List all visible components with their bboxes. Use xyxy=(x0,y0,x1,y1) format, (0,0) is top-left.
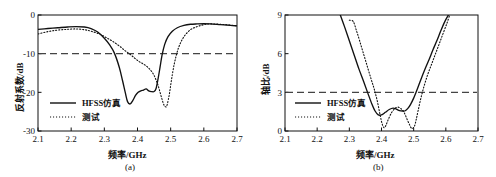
x-tick-label: 2.2 xyxy=(66,134,77,144)
x-tick-label: 2.6 xyxy=(198,134,210,144)
x-tick-label: 2.6 xyxy=(440,134,452,144)
y-tick-label: 3 xyxy=(278,88,283,98)
series-line-measured xyxy=(349,15,449,129)
legend-label-simulated: HFSS仿真 xyxy=(327,98,366,108)
x-tick-label: 2.5 xyxy=(408,134,420,144)
legend-label-simulated: HFSS仿真 xyxy=(82,98,121,108)
chart-panel-a: 2.12.22.32.42.52.62.7-30-20-100HFSS仿真测试 … xyxy=(0,0,248,177)
legend-label-measured: 测试 xyxy=(82,112,100,122)
series-line-simulated xyxy=(38,24,237,104)
legend: HFSS仿真测试 xyxy=(295,98,366,122)
y-tick-label: 9 xyxy=(278,10,283,20)
x-tick-label: 2.3 xyxy=(344,134,356,144)
legend: HFSS仿真测试 xyxy=(50,98,121,122)
x-tick-label: 2.7 xyxy=(231,134,243,144)
y-axis-title-a: 反射系数/dB xyxy=(13,62,26,112)
x-tick-label: 2.2 xyxy=(312,134,323,144)
y-tick-label: -10 xyxy=(23,49,35,59)
x-tick-label: 2.7 xyxy=(472,134,484,144)
series-group xyxy=(38,24,237,107)
panel-caption-a: (a) xyxy=(125,162,135,172)
x-axis-title-a: 频率/GHz xyxy=(108,148,147,161)
plot-frame xyxy=(285,15,478,131)
series-line-measured xyxy=(38,24,237,107)
y-axis-title-b: 轴比/dB xyxy=(259,63,272,95)
y-tick-label: 0 xyxy=(278,126,283,136)
y-tick-label: -30 xyxy=(23,126,35,136)
series-group xyxy=(340,15,449,129)
x-tick-label: 2.5 xyxy=(165,134,177,144)
legend-label-measured: 测试 xyxy=(327,112,345,122)
x-tick-label: 2.4 xyxy=(132,134,144,144)
x-axis-title-b: 频率/GHz xyxy=(356,148,395,161)
chart-panel-b: 2.12.22.32.42.52.62.70369HFSS仿真测试 轴比/dB … xyxy=(248,0,496,177)
x-tick-label: 2.3 xyxy=(99,134,111,144)
y-tick-label: 6 xyxy=(278,49,283,59)
y-tick-label: 0 xyxy=(31,10,36,20)
figure-container: 2.12.22.32.42.52.62.7-30-20-100HFSS仿真测试 … xyxy=(0,0,496,177)
plot-frame xyxy=(38,15,237,131)
panel-caption-b: (b) xyxy=(373,162,384,172)
x-tick-label: 2.4 xyxy=(376,134,388,144)
